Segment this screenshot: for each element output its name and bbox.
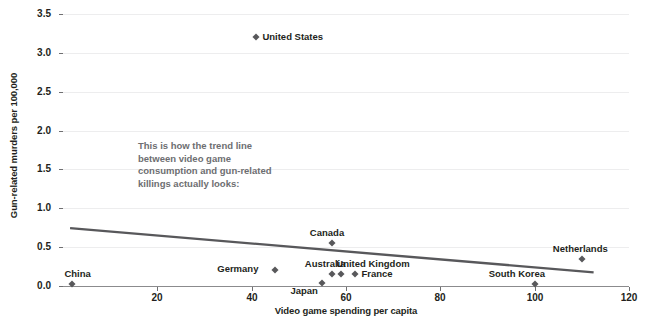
- data-point-label: United States: [262, 32, 323, 42]
- x-axis-tick: [535, 287, 536, 291]
- data-point-label: Canada: [310, 228, 344, 238]
- y-axis-tick: [59, 92, 63, 93]
- x-axis-tick-label: 40: [232, 293, 272, 303]
- y-axis-tick: [59, 208, 63, 209]
- x-axis-tick-label: 60: [326, 293, 366, 303]
- gridline-horizontal: [63, 14, 629, 15]
- chart-annotation: This is how the trend line between video…: [138, 140, 283, 190]
- x-axis-tick: [252, 287, 253, 291]
- y-axis-tick-label: 3.5: [15, 9, 51, 19]
- x-axis-tick-label: 100: [515, 293, 555, 303]
- gridline-horizontal: [63, 131, 629, 132]
- x-axis-tick: [346, 287, 347, 291]
- data-point-marker[interactable]: [328, 240, 335, 247]
- x-axis-tick: [440, 287, 441, 291]
- x-axis-tick-label: 120: [609, 293, 647, 303]
- data-point-label: Germany: [217, 264, 258, 274]
- x-axis-tick: [157, 287, 158, 291]
- y-axis-tick-label: 2.0: [15, 126, 51, 136]
- y-axis-tick: [59, 53, 63, 54]
- data-point-marker[interactable]: [352, 271, 359, 278]
- data-point-label: South Korea: [489, 269, 545, 279]
- y-axis-tick: [59, 131, 63, 132]
- scatter-chart: Gun-related murders per 100,000 Video ga…: [0, 0, 647, 324]
- y-axis-tick-label: 0.0: [15, 281, 51, 291]
- data-point-marker[interactable]: [328, 271, 335, 278]
- y-axis-tick: [59, 169, 63, 170]
- data-point-marker[interactable]: [272, 267, 279, 274]
- data-point-label: China: [64, 269, 90, 279]
- data-point-marker[interactable]: [578, 255, 585, 262]
- y-axis-tick: [59, 247, 63, 248]
- y-axis-title: Gun-related murders per 100,000: [8, 21, 19, 271]
- data-point-marker[interactable]: [253, 33, 260, 40]
- x-axis-tick-label: 80: [420, 293, 460, 303]
- y-axis-tick: [59, 286, 63, 287]
- x-axis-title: Video game spending per capita: [63, 305, 629, 316]
- y-axis-tick-label: 1.0: [15, 203, 51, 213]
- trend-line: [0, 0, 647, 324]
- data-point-label: Netherlands: [553, 244, 608, 254]
- gridline-horizontal: [63, 208, 629, 209]
- y-axis-tick-label: 0.5: [15, 242, 51, 252]
- y-axis-tick-label: 3.0: [15, 48, 51, 58]
- x-axis-tick-label: 20: [137, 293, 177, 303]
- gridline-horizontal: [63, 92, 629, 93]
- y-axis-tick-label: 2.5: [15, 87, 51, 97]
- data-point-label: France: [361, 269, 392, 279]
- y-axis-tick: [59, 14, 63, 15]
- data-point-label: Japan: [290, 286, 317, 296]
- gridline-horizontal: [63, 53, 629, 54]
- gridline-horizontal: [63, 247, 629, 248]
- x-axis-tick: [629, 287, 630, 291]
- y-axis-tick-label: 1.5: [15, 164, 51, 174]
- data-point-marker[interactable]: [338, 271, 345, 278]
